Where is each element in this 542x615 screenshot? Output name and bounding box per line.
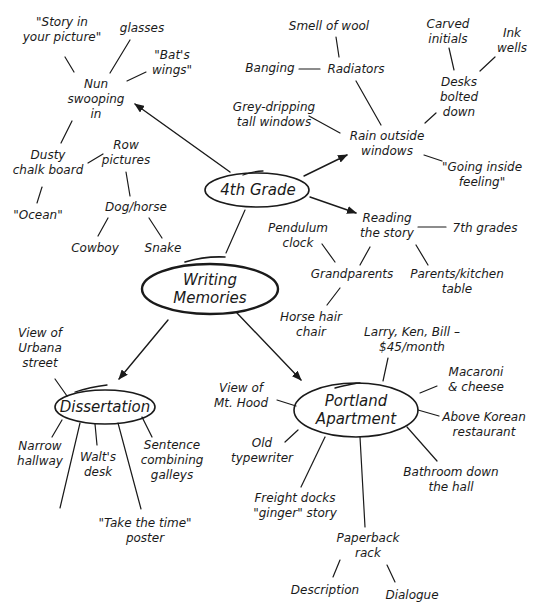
- node-dog-horse[interactable]: Dog/horse: [105, 200, 167, 215]
- node-reading-the-story[interactable]: Readingthe story: [360, 211, 414, 241]
- node-line: Reading: [360, 211, 414, 226]
- node-line: View of: [18, 326, 62, 341]
- hub-node-portland-apartment[interactable]: Portland Apartment: [316, 392, 396, 428]
- node-desks-bolted-down[interactable]: Desksbolteddown: [440, 75, 478, 120]
- node-take-the-time-poster[interactable]: "Take the time"poster: [98, 516, 191, 546]
- node-line: Above Korean: [442, 410, 526, 425]
- center-line-1: Writing: [173, 271, 246, 289]
- node-line: Dusty: [13, 148, 84, 163]
- node-line: galleys: [141, 468, 204, 483]
- node-snake[interactable]: Snake: [145, 241, 182, 256]
- node-walts-desk[interactable]: Walt'sdesk: [80, 450, 116, 480]
- node-view-of-mt-hood[interactable]: View ofMt. Hood: [214, 381, 268, 411]
- node-line: & cheese: [448, 380, 504, 395]
- node-line: Dog/horse: [105, 200, 167, 215]
- node-paperback-rack[interactable]: Paperbackrack: [336, 531, 399, 561]
- node-pendulum-clock[interactable]: Pendulumclock: [268, 221, 328, 251]
- node-line: Pendulum: [268, 221, 328, 236]
- node-cowboy[interactable]: Cowboy: [71, 241, 119, 256]
- node-grandparents[interactable]: Grandparents: [311, 267, 394, 282]
- node-bathroom-down-the-hall[interactable]: Bathroom downthe hall: [403, 465, 498, 495]
- node-dialogue[interactable]: Dialogue: [385, 588, 438, 603]
- node-line: Cowboy: [71, 241, 119, 256]
- node-sentence-combining-galleys[interactable]: Sentencecombininggalleys: [141, 438, 204, 483]
- node-radiators[interactable]: Radiators: [327, 62, 384, 77]
- node-line: Old: [231, 436, 293, 451]
- node-line: View of: [214, 381, 268, 396]
- node-macaroni-cheese[interactable]: Macaroni& cheese: [448, 365, 504, 395]
- node-line: wells: [497, 41, 527, 56]
- node-line: in: [68, 107, 125, 122]
- node-nun-swooping-in[interactable]: Nunswoopingin: [68, 77, 125, 122]
- node-line: swooping: [68, 92, 125, 107]
- node-line: Walt's: [80, 450, 116, 465]
- node-ocean[interactable]: "Ocean": [13, 208, 62, 223]
- node-banging[interactable]: Banging: [245, 61, 294, 76]
- node-ink-wells[interactable]: Inkwells: [497, 26, 527, 56]
- node-above-korean-restaurant[interactable]: Above Koreanrestaurant: [442, 410, 526, 440]
- node-smell-of-wool[interactable]: Smell of wool: [289, 19, 369, 34]
- node-line: windows: [350, 144, 425, 159]
- node-freight-docks-ginger-story[interactable]: Freight docks"ginger" story: [253, 491, 337, 521]
- node-line: Carved: [427, 17, 470, 32]
- node-grey-dripping-windows[interactable]: Grey-drippingtall windows: [233, 100, 315, 130]
- node-line: Freight docks: [253, 491, 337, 506]
- node-line: Parents/kitchen: [410, 267, 504, 282]
- node-line: "Take the time": [98, 516, 191, 531]
- node-larry-ken-bill[interactable]: Larry, Ken, Bill –$45/month: [364, 325, 460, 355]
- hub-node-dissertation[interactable]: Dissertation: [60, 398, 151, 416]
- hub-label: 4th Grade: [220, 181, 295, 199]
- node-line: the hall: [403, 480, 498, 495]
- node-dusty-chalk-board[interactable]: Dustychalk board: [13, 148, 84, 178]
- node-glasses[interactable]: glasses: [120, 21, 164, 36]
- node-line: Macaroni: [448, 365, 504, 380]
- node-line: rack: [336, 546, 399, 561]
- node-line: Smell of wool: [289, 19, 369, 34]
- node-carved-initials[interactable]: Carvedinitials: [427, 17, 470, 47]
- node-line: Row: [102, 138, 150, 153]
- node-line: your picture": [23, 30, 102, 45]
- node-parents-kitchen-table[interactable]: Parents/kitchentable: [410, 267, 504, 297]
- node-line: 7th grades: [453, 221, 518, 236]
- node-view-of-urbana-street[interactable]: View ofUrbanastreet: [18, 326, 62, 371]
- node-line: desk: [80, 465, 116, 480]
- node-7th-grades[interactable]: 7th grades: [453, 221, 518, 236]
- node-old-typewriter[interactable]: Oldtypewriter: [231, 436, 293, 466]
- node-bats-wings[interactable]: "Bat'swings": [152, 48, 192, 78]
- node-line: "ginger" story: [253, 506, 337, 521]
- node-line: Urbana: [18, 341, 62, 356]
- node-line: feeling": [442, 175, 522, 190]
- node-line: initials: [427, 32, 470, 47]
- node-line: the story: [360, 226, 414, 241]
- node-line: $45/month: [364, 340, 460, 355]
- node-line: Sentence: [141, 438, 204, 453]
- node-rain-outside-windows[interactable]: Rain outsidewindows: [350, 129, 425, 159]
- node-line: Horse hair: [280, 310, 342, 325]
- node-line: tall windows: [233, 115, 315, 130]
- node-line: "Bat's: [152, 48, 192, 63]
- node-line: Larry, Ken, Bill –: [364, 325, 460, 340]
- node-line: Paperback: [336, 531, 399, 546]
- node-line: Dialogue: [385, 588, 438, 603]
- node-line: wings": [152, 63, 192, 78]
- node-line: Rain outside: [350, 129, 425, 144]
- node-line: street: [18, 356, 62, 371]
- node-description[interactable]: Description: [291, 583, 359, 598]
- node-line: "Going inside: [442, 160, 522, 175]
- node-line: bolted: [440, 90, 478, 105]
- node-row-pictures[interactable]: Rowpictures: [102, 138, 150, 168]
- node-line: Narrow: [17, 439, 63, 454]
- node-going-inside-feeling[interactable]: "Going insidefeeling": [442, 160, 522, 190]
- hub-node-4th-grade[interactable]: 4th Grade: [220, 181, 295, 199]
- node-line: "Ocean": [13, 208, 62, 223]
- node-line: Nun: [68, 77, 125, 92]
- node-line: chair: [280, 325, 342, 340]
- node-horse-hair-chair[interactable]: Horse hairchair: [280, 310, 342, 340]
- hub-line-2: Apartment: [316, 410, 396, 428]
- node-line: poster: [98, 531, 191, 546]
- node-line: down: [440, 105, 478, 120]
- node-line: Radiators: [327, 62, 384, 77]
- central-node-writing-memories[interactable]: Writing Memories: [173, 271, 246, 307]
- node-story-in-picture[interactable]: "Story inyour picture": [23, 15, 102, 45]
- node-narrow-hallway[interactable]: Narrowhallway: [17, 439, 63, 469]
